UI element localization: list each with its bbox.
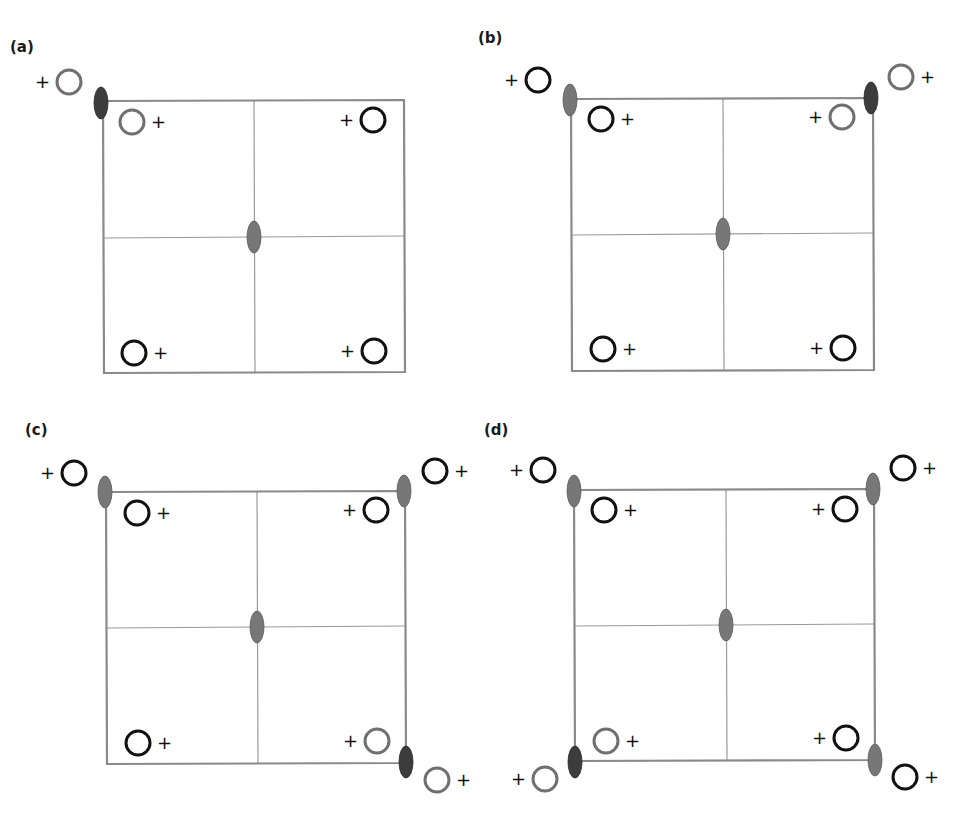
plus-sign: + — [504, 69, 519, 90]
plus-sign: + — [35, 71, 50, 92]
motif-circle-icon — [834, 726, 858, 750]
motif-circle-icon — [126, 731, 150, 755]
twofold-axis-icon — [716, 218, 730, 250]
panel-a: (a)+++++ — [10, 38, 405, 373]
plus-sign: + — [40, 462, 55, 483]
motif-circle-icon — [591, 337, 615, 361]
twofold-axis-icon — [864, 82, 878, 114]
plus-sign: + — [342, 499, 357, 520]
plus-sign: + — [625, 730, 640, 751]
motif-circle-icon — [533, 767, 557, 791]
plus-sign: + — [620, 108, 635, 129]
twofold-axis-icon — [397, 475, 411, 507]
panel-label: (c) — [25, 421, 48, 439]
motif-circle-icon — [364, 498, 388, 522]
panel-c: (c)+++++++ — [25, 421, 471, 792]
motif-circle-icon — [423, 459, 447, 483]
panel-d: (d)++++++++ — [484, 421, 939, 791]
motif-circle-icon — [362, 339, 386, 363]
motif-circle-icon — [833, 497, 857, 521]
plus-sign: + — [343, 730, 358, 751]
plus-sign: + — [339, 109, 354, 130]
plus-sign: + — [157, 732, 172, 753]
plus-sign: + — [808, 106, 823, 127]
plus-sign: + — [924, 766, 939, 787]
twofold-axis-icon — [98, 476, 112, 508]
motif-circle-icon — [361, 108, 385, 132]
motif-circle-icon — [120, 110, 144, 134]
plus-sign: + — [622, 338, 637, 359]
motif-circle-icon — [889, 65, 913, 89]
motif-circle-icon — [526, 68, 550, 92]
twofold-axis-icon — [866, 473, 880, 505]
motif-circle-icon — [62, 461, 86, 485]
motif-circle-icon — [592, 498, 616, 522]
panel-label: (d) — [484, 421, 508, 439]
motif-circle-icon — [594, 729, 618, 753]
panel-label: (b) — [478, 29, 502, 47]
twofold-axis-icon — [719, 609, 733, 641]
twofold-axis-icon — [568, 746, 582, 778]
twofold-axis-icon — [250, 611, 264, 643]
twofold-axis-icon — [94, 87, 108, 119]
plus-sign: + — [922, 457, 937, 478]
panel-label: (a) — [10, 38, 34, 56]
plus-sign: + — [509, 459, 524, 480]
twofold-axis-icon — [247, 221, 261, 253]
plus-sign: + — [809, 337, 824, 358]
plus-sign: + — [156, 502, 171, 523]
twofold-axis-icon — [868, 744, 882, 776]
twofold-axis-icon — [567, 475, 581, 507]
twofold-axis-icon — [399, 746, 413, 778]
motif-circle-icon — [425, 768, 449, 792]
symmetry-diagram: (a)+++++(b)++++++(c)+++++++(d)++++++++ — [0, 0, 962, 817]
motif-circle-icon — [122, 341, 146, 365]
plus-sign: + — [153, 342, 168, 363]
motif-circle-icon — [531, 458, 555, 482]
plus-sign: + — [812, 727, 827, 748]
motif-circle-icon — [125, 501, 149, 525]
plus-sign: + — [456, 769, 471, 790]
plus-sign: + — [151, 111, 166, 132]
motif-circle-icon — [589, 107, 613, 131]
plus-sign: + — [623, 499, 638, 520]
plus-sign: + — [511, 768, 526, 789]
motif-circle-icon — [893, 765, 917, 789]
plus-sign: + — [811, 498, 826, 519]
plus-sign: + — [454, 460, 469, 481]
motif-circle-icon — [891, 456, 915, 480]
motif-circle-icon — [57, 70, 81, 94]
plus-sign: + — [340, 340, 355, 361]
twofold-axis-icon — [563, 84, 577, 116]
motif-circle-icon — [830, 105, 854, 129]
motif-circle-icon — [365, 729, 389, 753]
motif-circle-icon — [831, 336, 855, 360]
plus-sign: + — [920, 66, 935, 87]
panel-b: (b)++++++ — [478, 29, 935, 371]
